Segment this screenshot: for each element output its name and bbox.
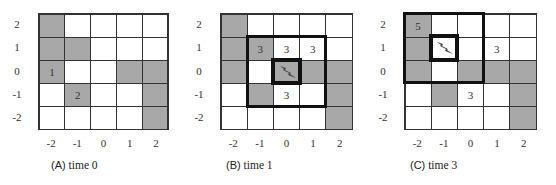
y-tick-label: 2 bbox=[10, 18, 24, 30]
y-tick-label: 1 bbox=[10, 41, 24, 53]
caption-letter: (C) bbox=[410, 159, 425, 171]
grid-cell-free bbox=[299, 14, 326, 38]
grid-cell-occupied: 1 bbox=[39, 60, 66, 84]
grid-cell-free bbox=[142, 37, 169, 61]
grid-cell-free bbox=[431, 106, 458, 130]
grid-cell-occupied bbox=[325, 60, 352, 84]
x-tick-label: 0 bbox=[277, 137, 297, 149]
grid-cell-free bbox=[142, 14, 169, 38]
panel-caption: (B) time 1 bbox=[226, 159, 273, 171]
y-tick-label: -2 bbox=[10, 111, 24, 123]
grid-cell-occupied bbox=[325, 106, 352, 130]
grid-cell-occupied bbox=[299, 60, 326, 84]
grid-cell-free bbox=[116, 37, 143, 61]
y-tick-label: -1 bbox=[192, 88, 206, 100]
x-tick-label: 1 bbox=[303, 137, 323, 149]
grid-cell-occupied bbox=[509, 83, 536, 107]
y-tick-label: -2 bbox=[376, 111, 390, 123]
grid-cell-free bbox=[299, 83, 326, 107]
grid-cell-occupied bbox=[247, 83, 274, 107]
grid-cell-occupied bbox=[405, 60, 432, 84]
grid-cell-occupied bbox=[221, 60, 248, 84]
grid-cell-occupied bbox=[221, 37, 248, 61]
grid-cell-occupied: 5 bbox=[405, 14, 432, 38]
y-tick-label: 0 bbox=[10, 65, 24, 77]
grid-cell-free bbox=[431, 14, 458, 38]
grid-cell-free bbox=[325, 37, 352, 61]
caption-text: time 1 bbox=[244, 159, 273, 171]
x-tick-label: -1 bbox=[67, 137, 87, 149]
y-tick-label: 2 bbox=[376, 18, 390, 30]
grid-cell-free bbox=[221, 106, 248, 130]
cell-label: 3 bbox=[310, 43, 316, 55]
x-tick-label: -1 bbox=[434, 137, 454, 149]
panel-a: 210-1-212-2-1012(A) time 0 bbox=[0, 0, 185, 185]
grid-cell-free: 3 bbox=[273, 83, 300, 107]
grid-cell-free bbox=[247, 106, 274, 130]
panel-caption: (A) time 0 bbox=[51, 159, 98, 171]
grid-cell-free bbox=[116, 83, 143, 107]
lightning-bolt-icon bbox=[436, 41, 454, 55]
grid-cell-free: 3 bbox=[483, 37, 510, 61]
grid-cell-free bbox=[221, 83, 248, 107]
grid-cell-free bbox=[273, 14, 300, 38]
caption-letter: (A) bbox=[51, 159, 66, 171]
cell-label: 3 bbox=[468, 89, 474, 101]
x-tick-label: -2 bbox=[223, 137, 243, 149]
grid-cell-occupied bbox=[116, 60, 143, 84]
grid-cell-occupied: 3 bbox=[247, 37, 274, 61]
grid-cell-occupied bbox=[221, 14, 248, 38]
x-tick-label: 2 bbox=[514, 137, 534, 149]
x-tick-label: -2 bbox=[407, 137, 427, 149]
grid-cell-free bbox=[90, 37, 117, 61]
grid-cell-free bbox=[483, 106, 510, 130]
y-tick-label: -2 bbox=[192, 111, 206, 123]
cell-label: 2 bbox=[75, 89, 81, 101]
grid-cell-free bbox=[247, 14, 274, 38]
grid-cell-free bbox=[299, 106, 326, 130]
grid-cell-occupied bbox=[64, 37, 91, 61]
grid-cell-free bbox=[325, 14, 352, 38]
caption-letter: (B) bbox=[226, 159, 241, 171]
grid-cell-free: 3 bbox=[457, 83, 484, 107]
panel-caption: (C) time 3 bbox=[410, 159, 457, 171]
x-tick-label: 1 bbox=[487, 137, 507, 149]
y-tick-label: 0 bbox=[376, 65, 390, 77]
grid-cell-free bbox=[431, 60, 458, 84]
caption-text: time 0 bbox=[69, 159, 98, 171]
panel-b: 210-1-23333-2-1012(B) time 1 bbox=[185, 0, 370, 185]
grid-cell-occupied bbox=[325, 83, 352, 107]
grid-cell-free bbox=[116, 106, 143, 130]
grid-cell-occupied bbox=[405, 37, 432, 61]
y-tick-label: -1 bbox=[376, 88, 390, 100]
grid-cell-free bbox=[509, 37, 536, 61]
grid-cell-occupied bbox=[142, 83, 169, 107]
grid-cell-free: 3 bbox=[273, 37, 300, 61]
cell-label: 1 bbox=[49, 66, 55, 78]
grid-cell-free bbox=[405, 83, 432, 107]
lightning-bolt-icon bbox=[279, 65, 297, 79]
cell-label: 3 bbox=[284, 43, 290, 55]
cell-label: 3 bbox=[258, 43, 264, 55]
cell-label: 3 bbox=[284, 89, 290, 101]
x-tick-label: 0 bbox=[94, 137, 114, 149]
grid-cell-free bbox=[483, 83, 510, 107]
grid-cell-free bbox=[405, 106, 432, 130]
grid-cell-occupied bbox=[142, 106, 169, 130]
x-tick-label: 2 bbox=[146, 137, 166, 149]
grid-cell-free bbox=[64, 60, 91, 84]
grid-cell-free bbox=[39, 83, 66, 107]
y-tick-label: -1 bbox=[10, 88, 24, 100]
x-tick-label: -1 bbox=[250, 137, 270, 149]
grid-cell-free bbox=[39, 106, 66, 130]
x-tick-label: 2 bbox=[330, 137, 350, 149]
x-tick-label: 0 bbox=[461, 137, 481, 149]
caption-text: time 3 bbox=[428, 159, 457, 171]
grid-cell-free bbox=[483, 14, 510, 38]
y-tick-label: 2 bbox=[192, 18, 206, 30]
grid-cell-occupied bbox=[457, 60, 484, 84]
grid-cell-free bbox=[90, 106, 117, 130]
grid-cell-free bbox=[64, 14, 91, 38]
grid-cell-free bbox=[116, 14, 143, 38]
grid-cell-occupied: 2 bbox=[64, 83, 91, 107]
